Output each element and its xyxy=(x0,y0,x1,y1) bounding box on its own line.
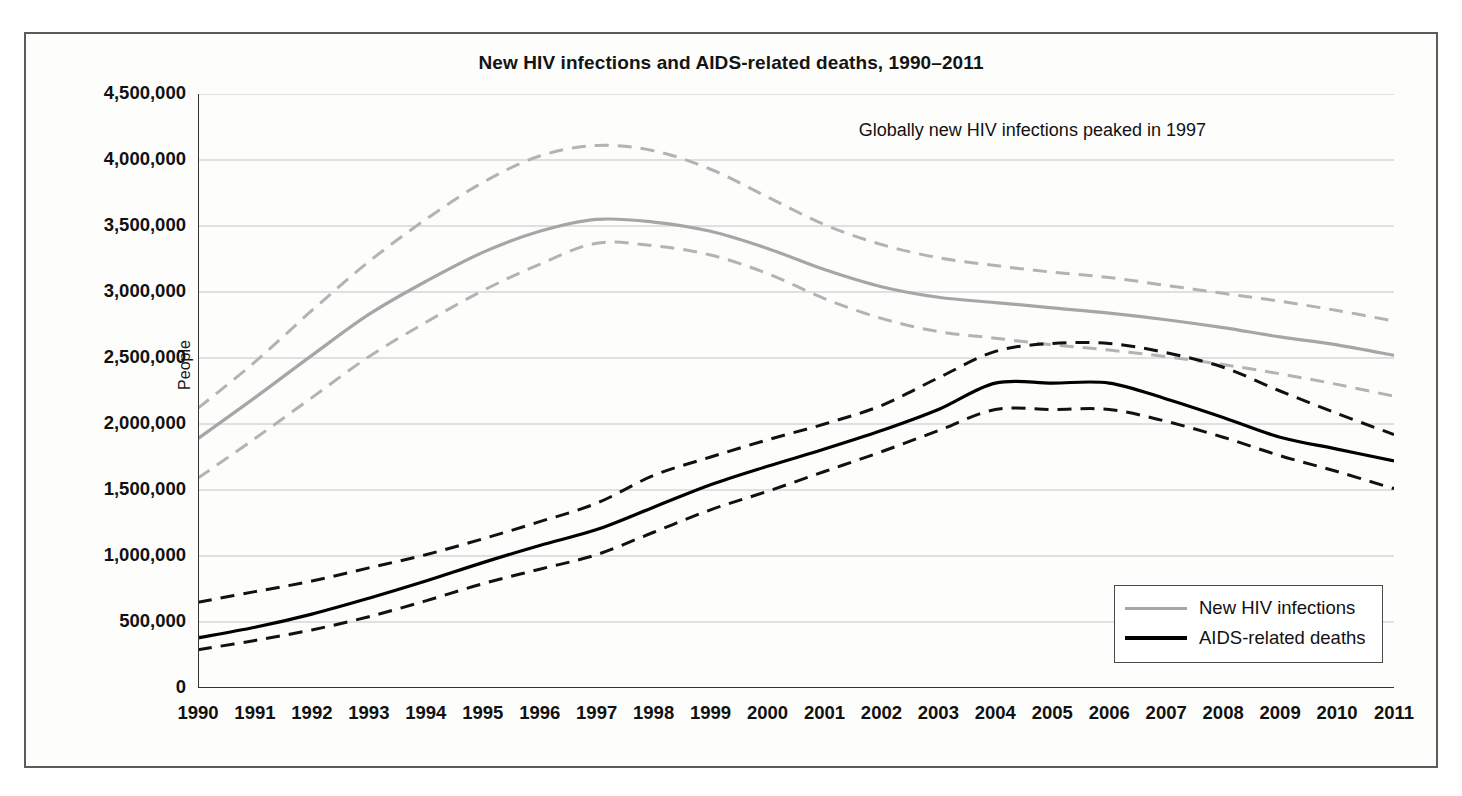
legend-item[interactable]: AIDS-related deaths xyxy=(1125,623,1366,653)
legend-swatch-line-icon xyxy=(1125,636,1187,640)
y-axis-tick-label: 3,000,000 xyxy=(26,280,186,302)
legend-item[interactable]: New HIV infections xyxy=(1125,593,1366,623)
series-line xyxy=(198,219,1394,439)
y-axis-tick-label: 2,500,000 xyxy=(26,346,186,368)
y-axis-tick-label: 0 xyxy=(26,676,186,698)
y-axis-tick-label: 500,000 xyxy=(26,610,186,632)
series-line xyxy=(198,145,1394,408)
series-line xyxy=(198,342,1394,602)
figure-frame: New HIV infections and AIDS-related deat… xyxy=(24,32,1438,768)
y-axis-tick-label: 3,500,000 xyxy=(26,214,186,236)
y-axis-tick-label: 2,000,000 xyxy=(26,412,186,434)
legend-item-label: New HIV infections xyxy=(1199,597,1355,619)
y-axis-tick-label: 1,500,000 xyxy=(26,478,186,500)
y-axis-tick-label: 1,000,000 xyxy=(26,544,186,566)
y-axis-tick-label: 4,000,000 xyxy=(26,148,186,170)
chart-title: New HIV infections and AIDS-related deat… xyxy=(26,52,1436,74)
chart-legend: New HIV infectionsAIDS-related deaths xyxy=(1114,585,1383,663)
chart-annotation: Globally new HIV infections peaked in 19… xyxy=(859,120,1206,141)
x-axis-tick-label: 2011 xyxy=(1359,702,1429,724)
y-axis-tick-label: 4,500,000 xyxy=(26,82,186,104)
legend-item-label: AIDS-related deaths xyxy=(1199,627,1366,649)
legend-swatch-line-icon xyxy=(1125,607,1187,610)
series-line xyxy=(198,242,1394,478)
